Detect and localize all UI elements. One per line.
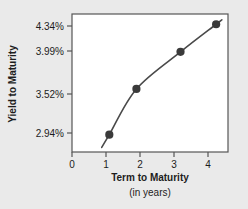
x-axis-subtitle: (in years) (72, 187, 228, 198)
y-tick-label-2: 3.99% (36, 46, 64, 57)
yield-curve-figure: 2.94% 3.52% 3.99% 4.34% 0 1 2 3 4 Yield … (0, 0, 248, 209)
x-tick-label-4: 4 (205, 159, 211, 170)
y-axis-title-wrapper: Yield to Maturity (2, 14, 22, 154)
x-tick-label-2: 2 (137, 159, 143, 170)
data-point-2 (176, 48, 184, 56)
x-tick-label-1: 1 (103, 159, 109, 170)
y-tick-label-3: 4.34% (36, 21, 64, 32)
plot-area (72, 14, 228, 152)
y-tick-label-0: 2.94% (36, 128, 64, 139)
data-point-0 (105, 131, 113, 139)
data-point-3 (212, 20, 220, 28)
y-axis-title: Yield to Maturity (7, 45, 18, 122)
x-tick-label-0: 0 (69, 159, 75, 170)
x-tick-label-3: 3 (171, 159, 177, 170)
data-point-1 (132, 85, 140, 93)
y-tick-label-1: 3.52% (36, 89, 64, 100)
x-axis-title: Term to Maturity (72, 172, 228, 183)
